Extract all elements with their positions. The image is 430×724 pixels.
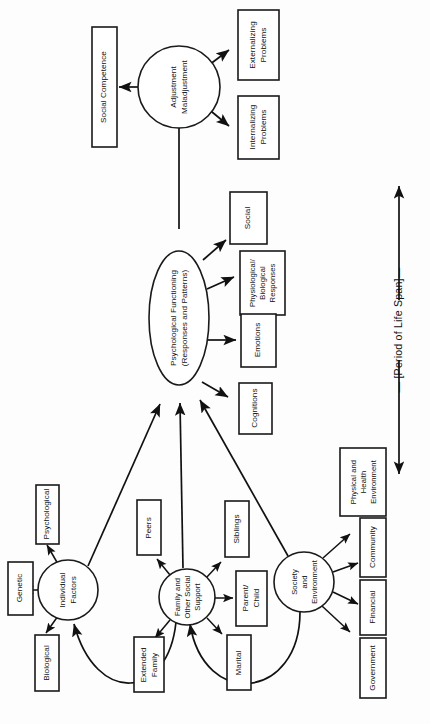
edge-functioning-to-social <box>203 240 226 260</box>
svg-text:Parent/: Parent/ <box>241 584 250 611</box>
svg-text:Physiological/: Physiological/ <box>248 258 257 307</box>
svg-text:Marital: Marital <box>234 650 243 675</box>
label-peers: Peers <box>144 517 153 539</box>
label-social-competence: Social Competence <box>99 51 108 123</box>
svg-text:Siblings: Siblings <box>232 514 241 543</box>
edge-society-to-government <box>322 606 350 632</box>
node-adjustment-maladjustment[interactable] <box>138 46 220 128</box>
svg-text:Individual: Individual <box>58 572 67 607</box>
svg-text:Responses: Responses <box>268 263 277 302</box>
node-psychological-functioning[interactable] <box>149 251 209 385</box>
edge-society-to-financial <box>333 592 358 604</box>
svg-text:Social: Social <box>243 207 252 230</box>
edge-individual-to-psychological <box>47 545 58 564</box>
model-diagram: Adjustment Maladjustment Psychological F… <box>0 0 430 724</box>
svg-text:Family and: Family and <box>173 578 182 616</box>
svg-text:Support: Support <box>193 583 202 611</box>
svg-text:Community: Community <box>368 525 377 568</box>
label-community: Community <box>368 525 377 568</box>
svg-text:and: and <box>300 576 309 589</box>
svg-text:Society: Society <box>290 569 299 595</box>
svg-text:Psychological Functioning: Psychological Functioning <box>169 270 178 366</box>
label-social: Social <box>243 207 252 230</box>
svg-text:Financial: Financial <box>368 590 377 623</box>
svg-text:(Responses and Patterns): (Responses and Patterns) <box>180 270 189 367</box>
label-marital: Marital <box>234 650 243 675</box>
svg-text:Environment: Environment <box>369 459 378 504</box>
label-government: Government <box>368 645 377 691</box>
edge-individual-to-biological <box>46 616 58 633</box>
edge-functioning-to-physiological <box>207 277 234 289</box>
diagram-canvas: Adjustment Maladjustment Psychological F… <box>0 0 430 724</box>
svg-text:Adjustment: Adjustment <box>169 66 178 108</box>
label-genetic: Genetic <box>15 574 24 603</box>
svg-text:Extended: Extended <box>139 647 148 682</box>
edge-family-to-functioning <box>180 403 183 568</box>
svg-text:Factors: Factors <box>69 576 78 604</box>
svg-text:— [Period of Life Span]—: — [Period of Life Span]— <box>392 267 404 392</box>
svg-text:Biological: Biological <box>42 645 51 681</box>
svg-text:Environment: Environment <box>310 559 319 604</box>
svg-text:Biological: Biological <box>258 266 267 300</box>
label-emotions: Emotions <box>253 323 262 358</box>
svg-text:Health: Health <box>359 471 368 494</box>
edge-family-to-peers <box>157 559 170 575</box>
svg-text:Family: Family <box>150 652 159 677</box>
svg-text:Social Competence: Social Competence <box>99 51 108 123</box>
svg-text:Peers: Peers <box>144 517 153 539</box>
svg-text:Externalizing: Externalizing <box>248 21 257 69</box>
svg-text:Cognitions: Cognitions <box>250 388 259 427</box>
label-financial: Financial <box>368 590 377 623</box>
svg-text:Government: Government <box>368 645 377 691</box>
edge-functioning-to-cognitions <box>202 382 228 397</box>
svg-text:Problems: Problems <box>259 110 268 145</box>
svg-text:Internalizing: Internalizing <box>248 105 257 150</box>
node-individual-factors[interactable] <box>38 560 98 620</box>
edge-family-to-extended-family <box>155 620 170 638</box>
label-biological: Biological <box>42 645 51 681</box>
edge-society-to-physical-health <box>323 534 350 558</box>
svg-text:Physical and: Physical and <box>349 460 358 504</box>
svg-text:Maladjustment: Maladjustment <box>180 59 189 114</box>
svg-text:Other Social: Other Social <box>183 575 192 618</box>
edge-family-to-siblings <box>206 562 221 578</box>
label-siblings: Siblings <box>232 514 241 543</box>
edge-family-to-marital <box>207 618 222 634</box>
svg-text:Genetic: Genetic <box>15 574 24 603</box>
label-period-of-life-span: — [Period of Life Span]— <box>392 267 404 392</box>
edge-society-to-community <box>333 563 358 572</box>
label-psychological: Psychological <box>42 489 51 540</box>
svg-text:Child: Child <box>252 589 261 608</box>
svg-text:Emotions: Emotions <box>253 323 262 358</box>
svg-text:Psychological: Psychological <box>42 489 51 540</box>
svg-text:Problems: Problems <box>259 28 268 63</box>
label-cognitions: Cognitions <box>250 388 259 427</box>
